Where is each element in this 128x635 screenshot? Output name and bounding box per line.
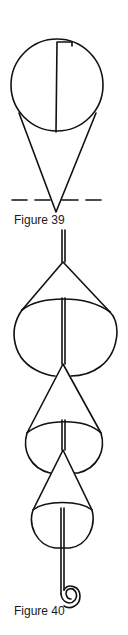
diagram-canvas: [0, 0, 128, 635]
figure-40-drawing: [14, 230, 117, 608]
figure-39-drawing: [11, 39, 103, 212]
figure-39-caption: Figure 39: [14, 213, 65, 227]
figure-40-caption: Figure 40: [14, 604, 65, 618]
